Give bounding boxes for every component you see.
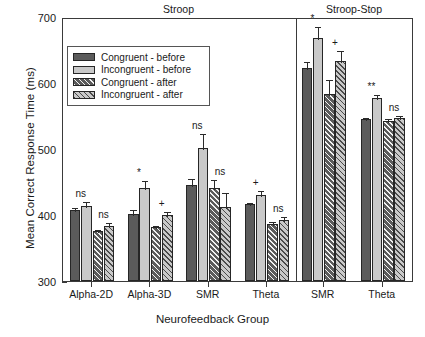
- error-bar-cap: [326, 80, 332, 81]
- y-tick-label: 400: [22, 210, 56, 222]
- bar: [324, 94, 335, 281]
- significance-marker: ns: [389, 103, 400, 113]
- bar: [209, 188, 220, 281]
- bar: [104, 226, 115, 281]
- significance-marker: +: [253, 178, 259, 188]
- legend-swatch: [73, 53, 95, 61]
- bar: [162, 215, 173, 281]
- legend-label: Incongruent - before: [101, 64, 191, 75]
- y-tick-label: 700: [22, 12, 56, 24]
- error-bar-cap: [106, 223, 112, 224]
- x-tick-label: Theta: [252, 288, 279, 300]
- error-bar-cap: [363, 118, 369, 119]
- error-bar-cap: [164, 212, 170, 213]
- y-axis-label: Mean Correct Response Time (ms): [24, 33, 36, 283]
- panel-divider: [296, 19, 297, 281]
- bar: [372, 98, 383, 281]
- bar: [139, 188, 150, 281]
- y-tick-label: 500: [22, 144, 56, 156]
- error-bar: [318, 27, 319, 40]
- y-tick-mark: [62, 282, 67, 283]
- x-tick-mark: [91, 282, 92, 287]
- error-bar-cap: [269, 222, 275, 223]
- y-tick-label: 600: [22, 78, 56, 90]
- bar: [256, 195, 267, 281]
- bar: [394, 118, 405, 281]
- error-bar-cap: [83, 202, 89, 203]
- significance-marker: ns: [76, 189, 87, 199]
- error-bar-cap: [211, 180, 217, 181]
- panel-title: Stroop: [119, 3, 239, 15]
- legend-item: Incongruent - before: [73, 64, 204, 77]
- significance-marker: +: [159, 199, 165, 209]
- error-bar: [329, 80, 330, 96]
- legend: Congruent - beforeIncongruent - beforeCo…: [67, 46, 210, 106]
- error-bar-cap: [200, 134, 206, 135]
- bar: [198, 148, 209, 281]
- error-bar-cap: [385, 119, 391, 120]
- error-bar-cap: [304, 62, 310, 63]
- error-bar-cap: [95, 230, 101, 231]
- x-tick-mark: [382, 282, 383, 287]
- bar: [313, 38, 324, 281]
- significance-marker: *: [137, 168, 141, 178]
- bar: [93, 231, 104, 281]
- x-tick-mark: [149, 282, 150, 287]
- x-tick-mark: [323, 282, 324, 287]
- error-bar-cap: [188, 179, 194, 180]
- error-bar: [226, 193, 227, 210]
- y-tick-label: 300: [22, 276, 56, 288]
- significance-marker: **: [368, 82, 376, 92]
- bar: [70, 210, 81, 281]
- legend-item: Incongruent - after: [73, 89, 204, 102]
- legend-swatch: [73, 78, 95, 86]
- bar: [383, 121, 394, 281]
- bar: [245, 204, 256, 281]
- error-bar-cap: [130, 210, 136, 211]
- error-bar-cap: [315, 27, 321, 28]
- error-bar: [145, 181, 146, 190]
- bar: [220, 207, 231, 281]
- x-tick-label: Alpha-3D: [127, 288, 171, 300]
- error-bar: [203, 134, 204, 151]
- error-bar-cap: [72, 208, 78, 209]
- bar: [128, 214, 139, 281]
- bar: [267, 224, 278, 281]
- significance-marker: *: [310, 14, 314, 24]
- x-axis-label: Neurofeedback Group: [0, 313, 425, 325]
- error-bar-cap: [396, 116, 402, 117]
- error-bar-cap: [374, 95, 380, 96]
- error-bar-cap: [337, 51, 343, 52]
- error-bar: [214, 180, 215, 190]
- bar: [279, 220, 290, 281]
- significance-marker: ns: [98, 210, 109, 220]
- x-tick-label: SMR: [311, 288, 334, 300]
- error-bar-cap: [281, 217, 287, 218]
- legend-swatch: [73, 91, 95, 99]
- legend-label: Incongruent - after: [101, 89, 183, 100]
- significance-marker: ns: [192, 121, 203, 131]
- bar: [302, 68, 313, 281]
- error-bar: [307, 62, 308, 70]
- figure-bar-chart: Mean Correct Response Time (ms) Neurofee…: [0, 0, 425, 337]
- x-tick-label: SMR: [196, 288, 219, 300]
- bar: [81, 206, 92, 281]
- error-bar-cap: [142, 181, 148, 182]
- legend-label: Congruent - after: [101, 77, 177, 88]
- x-tick-label: Alpha-2D: [69, 288, 113, 300]
- error-bar-cap: [258, 191, 264, 192]
- x-tick-mark: [208, 282, 209, 287]
- x-tick-label: Theta: [368, 288, 395, 300]
- significance-marker: ns: [215, 167, 226, 177]
- legend-item: Congruent - before: [73, 51, 204, 64]
- bar: [186, 185, 197, 281]
- error-bar: [341, 51, 342, 62]
- error-bar: [192, 179, 193, 188]
- error-bar-cap: [153, 226, 159, 227]
- x-tick-mark: [266, 282, 267, 287]
- significance-marker: ns: [273, 204, 284, 214]
- bar: [335, 61, 346, 281]
- legend-item: Congruent - after: [73, 76, 204, 89]
- error-bar-cap: [222, 193, 228, 194]
- error-bar-cap: [247, 203, 253, 204]
